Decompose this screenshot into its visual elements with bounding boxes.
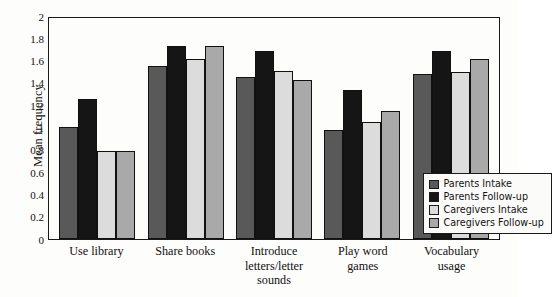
x-axis-category-label: Use library [53,244,139,296]
legend-swatch-icon [429,205,439,215]
y-axis-tick: 2 [12,12,44,23]
bar-group [148,18,224,239]
legend-label: Caregivers Follow-up [444,217,544,229]
y-axis-tick: 1.6 [12,56,44,67]
y-axis-tick-labels: 00.20.40.60.811.21.41.61.82 [12,17,44,240]
x-axis-category-label: Vocabulary usage [409,244,495,296]
legend: Parents IntakeParents Follow-upCaregiver… [423,173,552,234]
x-axis-tick-labels: Use libraryShare booksIntroduce letters/… [48,244,500,296]
bar[interactable] [293,80,312,239]
legend-item[interactable]: Caregivers Follow-up [429,216,544,229]
y-axis-tick: 0 [12,235,44,246]
legend-swatch-icon [429,180,439,190]
bar[interactable] [236,77,255,239]
bar[interactable] [205,46,224,239]
bar-group [236,18,312,239]
legend-item[interactable]: Parents Follow-up [429,191,544,204]
plot-area: Parents IntakeParents Follow-upCaregiver… [48,17,500,240]
y-axis-tick: 0.2 [12,212,44,223]
bar[interactable] [343,90,362,239]
bar[interactable] [148,66,167,239]
y-axis-tick: 1.8 [12,34,44,45]
bar[interactable] [274,71,293,239]
bar[interactable] [362,122,381,239]
bar-group [324,18,400,239]
x-axis-category-label: Play word games [320,244,406,296]
bar[interactable] [186,59,205,239]
y-axis-tick: 1.2 [12,101,44,112]
legend-item[interactable]: Parents Intake [429,178,544,191]
legend-item[interactable]: Caregivers Intake [429,204,544,217]
bar[interactable] [167,46,186,239]
legend-label: Caregivers Intake [444,204,528,216]
legend-swatch-icon [429,192,439,202]
bar[interactable] [116,151,135,239]
legend-label: Parents Intake [444,178,512,190]
y-axis-tick: 0.8 [12,145,44,156]
bar[interactable] [255,51,274,239]
legend-label: Parents Follow-up [444,191,528,203]
bar[interactable] [97,151,116,239]
y-axis-tick: 0.6 [12,168,44,179]
y-axis-tick: 1 [12,123,44,134]
bar[interactable] [59,127,78,239]
bar[interactable] [78,99,97,239]
legend-swatch-icon [429,218,439,228]
bar[interactable] [381,111,400,239]
x-axis-category-label: Share books [142,244,228,296]
bar-group [59,18,135,239]
y-axis-tick: 0.4 [12,190,44,201]
x-axis-category-label: Introduce letters/letter sounds [231,244,317,296]
y-axis-tick: 1.4 [12,78,44,89]
bar[interactable] [324,130,343,239]
